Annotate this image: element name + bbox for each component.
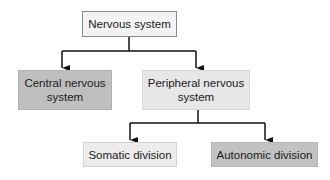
node-nervous-system: Nervous system — [82, 11, 177, 37]
node-autonomic-division: Autonomic division — [211, 142, 318, 167]
node-label: Autonomic division — [217, 148, 313, 162]
node-label-line2: system — [47, 91, 83, 103]
node-peripheral-nervous-system: Peripheral nervous system — [142, 70, 250, 110]
node-label: Central nervous system — [24, 76, 105, 104]
node-somatic-division: Somatic division — [83, 142, 177, 167]
node-label: Peripheral nervous system — [148, 76, 245, 104]
node-central-nervous-system: Central nervous system — [18, 70, 112, 110]
node-label-line1: Central nervous — [24, 77, 105, 89]
node-label-line2: system — [178, 91, 214, 103]
node-label: Somatic division — [88, 148, 171, 162]
node-label-line1: Peripheral nervous — [148, 77, 245, 89]
node-label: Nervous system — [88, 17, 170, 31]
